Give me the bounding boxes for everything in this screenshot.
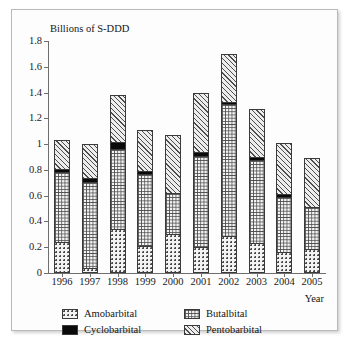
bar-segment-pentobarbital-2001[interactable]: [193, 93, 209, 152]
bar-segment-butalbital-2004[interactable]: [276, 197, 292, 252]
bar-segment-butalbital-1997[interactable]: [82, 182, 98, 268]
bar-stack-1998[interactable]: [110, 41, 126, 273]
x-tick-label-2000: 2000: [163, 277, 184, 288]
x-tick-label-1996: 1996: [51, 277, 72, 288]
bar-segment-butalbital-1998[interactable]: [110, 149, 126, 229]
bar-segment-pentobarbital-2005[interactable]: [304, 158, 320, 207]
bar-segment-pentobarbital-1996[interactable]: [54, 140, 70, 168]
bar-stack-2000[interactable]: [165, 41, 181, 273]
bar-segment-butalbital-2001[interactable]: [193, 156, 209, 248]
legend-item-cyclobarbital[interactable]: Cyclobarbital: [62, 325, 184, 336]
y-tick-label: 0.6: [29, 190, 42, 201]
bar-segment-cyclobarbital-1996[interactable]: [54, 169, 70, 173]
legend-swatch-cyclobarbital: [62, 325, 78, 335]
y-tick-label: 0: [37, 268, 42, 279]
y-tick-label: 1: [37, 139, 42, 150]
legend-swatch-butalbital: [184, 309, 200, 319]
legend-swatch-pentobarbital: [184, 325, 200, 335]
y-tick-mark: [44, 93, 49, 94]
x-tick-label-1999: 1999: [135, 277, 156, 288]
bar-stack-2004[interactable]: [276, 41, 292, 273]
bar-segment-butalbital-2005[interactable]: [304, 207, 320, 248]
bar-segment-butalbital-1996[interactable]: [54, 172, 70, 242]
y-tick-mark: [44, 41, 49, 42]
y-tick-mark: [44, 221, 49, 222]
legend-label-cyclobarbital: Cyclobarbital: [84, 325, 141, 336]
y-tick-mark: [44, 67, 49, 68]
y-tick-mark: [44, 196, 49, 197]
bar-segment-amobarbital-1996[interactable]: [54, 242, 70, 273]
x-tick-label-2005: 2005: [302, 277, 323, 288]
bar-segment-amobarbital-2000[interactable]: [165, 234, 181, 273]
bar-segment-butalbital-2002[interactable]: [221, 104, 237, 235]
y-tick-label: 1.8: [29, 36, 42, 47]
bar-segment-amobarbital-2004[interactable]: [276, 252, 292, 273]
x-tick-label-2002: 2002: [218, 277, 239, 288]
bar-stack-2003[interactable]: [249, 41, 265, 273]
x-tick-label-2003: 2003: [246, 277, 267, 288]
legend-swatch-amobarbital: [62, 309, 78, 319]
bar-segment-pentobarbital-2000[interactable]: [165, 135, 181, 193]
x-tick-label-2001: 2001: [190, 277, 211, 288]
x-tick-label-1998: 1998: [107, 277, 128, 288]
bar-segment-amobarbital-1998[interactable]: [110, 229, 126, 273]
y-tick-label: 1.4: [29, 87, 42, 98]
bar-segment-butalbital-1999[interactable]: [137, 174, 153, 246]
legend-item-amobarbital[interactable]: Amobarbital: [62, 309, 184, 320]
legend-item-butalbital[interactable]: Butalbital: [184, 309, 307, 320]
bar-segment-cyclobarbital-1998[interactable]: [110, 142, 126, 150]
bar-segment-pentobarbital-2003[interactable]: [249, 109, 265, 157]
chart-figure: Billions of S-DDD 00.20.40.60.811.21.41.…: [11, 9, 338, 331]
y-tick-label: 1.6: [29, 62, 42, 73]
bar-segment-amobarbital-2002[interactable]: [221, 236, 237, 273]
y-axis-line: [48, 41, 49, 273]
bar-segment-amobarbital-1999[interactable]: [137, 246, 153, 273]
bar-stack-1999[interactable]: [137, 41, 153, 273]
bar-segment-cyclobarbital-2001[interactable]: [193, 152, 209, 156]
bar-segment-cyclobarbital-2003[interactable]: [249, 157, 265, 160]
y-tick-label: 1.2: [29, 113, 42, 124]
bar-segment-amobarbital-2001[interactable]: [193, 247, 209, 273]
x-axis-title: Year: [305, 293, 324, 304]
bar-stack-2001[interactable]: [193, 41, 209, 273]
y-axis-title: Billions of S-DDD: [50, 23, 129, 34]
legend-item-pentobarbital[interactable]: Pentobarbital: [184, 325, 307, 336]
bar-segment-pentobarbital-2004[interactable]: [276, 143, 292, 195]
bar-segment-cyclobarbital-2004[interactable]: [276, 194, 292, 197]
y-tick-mark: [44, 144, 49, 145]
bar-segment-amobarbital-2003[interactable]: [249, 243, 265, 273]
chart-legend: AmobarbitalButalbitalCyclobarbitalPentob…: [62, 306, 307, 338]
bar-segment-cyclobarbital-1997[interactable]: [82, 178, 98, 182]
bar-segment-pentobarbital-1999[interactable]: [137, 130, 153, 171]
bar-stack-2005[interactable]: [304, 41, 320, 273]
bar-stack-1996[interactable]: [54, 41, 70, 273]
bar-segment-cyclobarbital-1999[interactable]: [137, 171, 153, 174]
bar-segment-cyclobarbital-2002[interactable]: [221, 102, 237, 105]
x-tick-label-2004: 2004: [274, 277, 295, 288]
y-tick-label: 0.8: [29, 165, 42, 176]
y-tick-label: 0.2: [29, 242, 42, 253]
bar-segment-butalbital-2000[interactable]: [165, 193, 181, 234]
bar-segment-amobarbital-2005[interactable]: [304, 249, 320, 273]
bar-stack-1997[interactable]: [82, 41, 98, 273]
y-tick-mark: [44, 118, 49, 119]
legend-label-pentobarbital: Pentobarbital: [206, 325, 262, 336]
bar-segment-pentobarbital-1997[interactable]: [82, 144, 98, 178]
y-tick-label: 0.4: [29, 216, 42, 227]
y-tick-mark: [44, 170, 49, 171]
legend-label-amobarbital: Amobarbital: [84, 309, 137, 320]
bar-segment-pentobarbital-2002[interactable]: [221, 54, 237, 102]
legend-label-butalbital: Butalbital: [206, 309, 247, 320]
bar-segment-butalbital-2003[interactable]: [249, 160, 265, 244]
bar-segment-pentobarbital-1998[interactable]: [110, 95, 126, 141]
x-tick-label-1997: 1997: [79, 277, 100, 288]
y-tick-mark: [44, 273, 49, 274]
bar-stack-2002[interactable]: [221, 41, 237, 273]
y-tick-mark: [44, 247, 49, 248]
plot-area: 00.20.40.60.811.21.41.61.8 1996199719981…: [48, 41, 326, 273]
